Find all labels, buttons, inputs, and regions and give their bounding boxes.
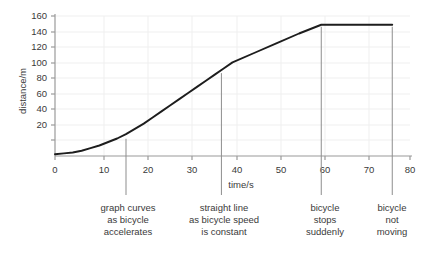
y-axis-tick-labels: 160 140 120 100 80 60 40 20: [31, 10, 47, 130]
x-tick-label: 10: [99, 164, 110, 175]
annotation-accelerating: graph curves as bicycle accelerates: [101, 202, 156, 237]
y-tick-label: 40: [36, 103, 47, 114]
y-tick-label: 20: [36, 119, 47, 130]
x-tick-label: 0: [52, 164, 57, 175]
x-tick-label: 20: [143, 164, 154, 175]
x-tick-label: 50: [276, 164, 287, 175]
annotation-line-text: bicycle: [310, 202, 339, 213]
x-axis-title: time/s: [228, 179, 254, 190]
annotation-line-text: is constant: [201, 226, 247, 237]
x-axis-ticks: [55, 156, 410, 160]
annotation-line-text: suddenly: [306, 226, 344, 237]
annotation-line-text: straight line: [200, 202, 249, 213]
annotation-line-text: graph curves: [101, 202, 156, 213]
x-tick-label: 40: [232, 164, 243, 175]
y-axis-title: distance/m: [17, 68, 28, 114]
annotation-constant-speed: straight line as bicycle speed is consta…: [189, 202, 259, 237]
y-tick-label: 80: [36, 72, 47, 83]
annotation-line-text: not: [385, 214, 399, 225]
y-tick-label: 120: [31, 41, 47, 52]
annotation-line-text: as bicycle: [107, 214, 149, 225]
annotation-line-text: bicycle: [377, 202, 406, 213]
grid-lines: [55, 16, 410, 156]
y-tick-label: 140: [31, 26, 47, 37]
annotation-leader-lines: [126, 27, 392, 195]
y-tick-label: 60: [36, 88, 47, 99]
annotation-line-text: moving: [377, 226, 408, 237]
y-tick-label: 160: [31, 10, 47, 21]
annotation-line-text: accelerates: [104, 226, 153, 237]
x-axis-tick-labels: 0 10 20 30 40 50 60 70 80: [52, 164, 415, 175]
x-tick-label: 70: [364, 164, 375, 175]
annotation-not-moving: bicycle not moving: [377, 202, 408, 237]
y-tick-label: 100: [31, 57, 47, 68]
annotation-line-text: as bicycle speed: [189, 214, 259, 225]
annotation-stops-suddenly: bicycle stops suddenly: [306, 202, 344, 237]
chart-svg: 160 140 120 100 80 60 40 20 0 10 20 30 4…: [0, 0, 433, 253]
distance-time-curve: [55, 25, 392, 155]
distance-time-graph-figure: 160 140 120 100 80 60 40 20 0 10 20 30 4…: [0, 0, 433, 253]
annotation-line-text: stops: [314, 214, 337, 225]
x-tick-label: 30: [187, 164, 198, 175]
x-tick-label: 80: [405, 164, 416, 175]
